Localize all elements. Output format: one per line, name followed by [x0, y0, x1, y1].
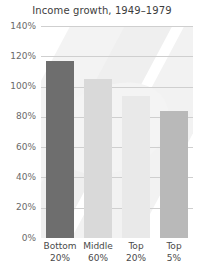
x-tick-label: Middle60% [79, 241, 117, 264]
gridline-120% [41, 56, 193, 57]
x-tick-label-line2: 60% [79, 253, 117, 265]
x-tick-label-line2: 20% [117, 253, 155, 265]
bar-top-20[interactable] [122, 96, 150, 238]
y-tick-label: 120% [0, 52, 36, 61]
y-tick-label: 80% [0, 112, 36, 121]
x-tick-label-line1: Top [117, 241, 155, 253]
y-tick-label: 40% [0, 173, 36, 182]
y-tick-label: 100% [0, 82, 36, 91]
x-tick-label: Bottom20% [41, 241, 79, 264]
x-tick-label-line2: 20% [41, 253, 79, 265]
income-growth-bar-chart: Income growth, 1949–1979 0%20%40%60%80%1… [0, 0, 204, 274]
x-tick-label-line2: 5% [155, 253, 193, 265]
x-tick-label-line1: Top [155, 241, 193, 253]
chart-title: Income growth, 1949–1979 [0, 5, 204, 16]
y-tick-label: 60% [0, 143, 36, 152]
plot-area [41, 26, 193, 238]
x-tick-label: Top5% [155, 241, 193, 264]
y-tick-label: 20% [0, 203, 36, 212]
x-tick-label: Top20% [117, 241, 155, 264]
bar-middle-60[interactable] [84, 79, 112, 238]
bar-top-5[interactable] [160, 111, 188, 238]
x-tick-label-line1: Bottom [41, 241, 79, 253]
x-tick-label-line1: Middle [79, 241, 117, 253]
y-tick-label: 0% [0, 234, 36, 243]
bar-bottom-20[interactable] [46, 61, 74, 238]
gridline-140% [41, 26, 193, 27]
y-tick-label: 140% [0, 22, 36, 31]
